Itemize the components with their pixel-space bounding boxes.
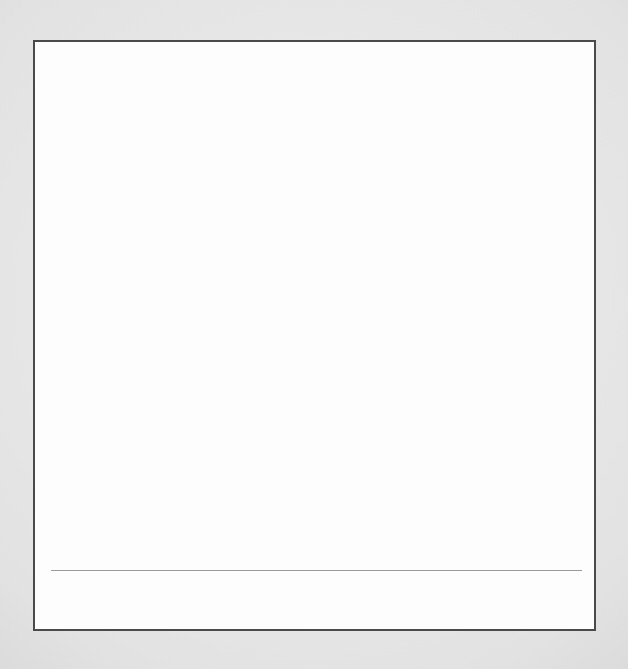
chart-card xyxy=(33,40,596,631)
chart-plot-area xyxy=(35,42,598,633)
footer-divider xyxy=(51,570,582,571)
chart-svg xyxy=(35,42,598,633)
page-background xyxy=(0,0,628,669)
